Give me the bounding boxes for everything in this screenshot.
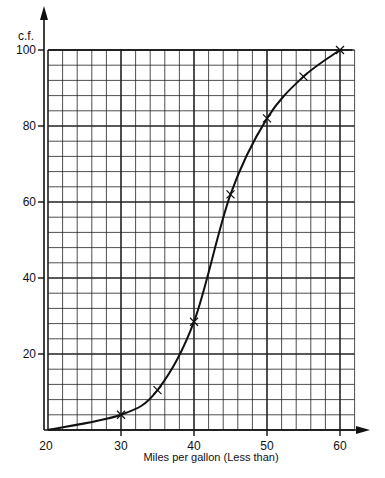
grid — [48, 50, 355, 430]
y-tick-label: 40 — [23, 271, 37, 285]
cumulative-frequency-chart: 204060801002030405060 c.f. Miles per gal… — [0, 0, 385, 478]
cross-marker — [300, 73, 308, 81]
x-tick-label: 20 — [39, 439, 53, 453]
axes — [40, 6, 370, 434]
y-tick-label: 20 — [23, 347, 37, 361]
y-tick-label: 100 — [16, 43, 36, 57]
y-tick-label: 80 — [23, 119, 37, 133]
x-tick-label: 60 — [333, 439, 347, 453]
y-tick-label: 60 — [23, 195, 37, 209]
x-tick-label: 30 — [114, 439, 128, 453]
cross-marker — [154, 386, 162, 394]
y-axis-label: c.f. — [18, 29, 34, 43]
x-axis-label: Miles per gallon (Less than) — [143, 451, 278, 463]
